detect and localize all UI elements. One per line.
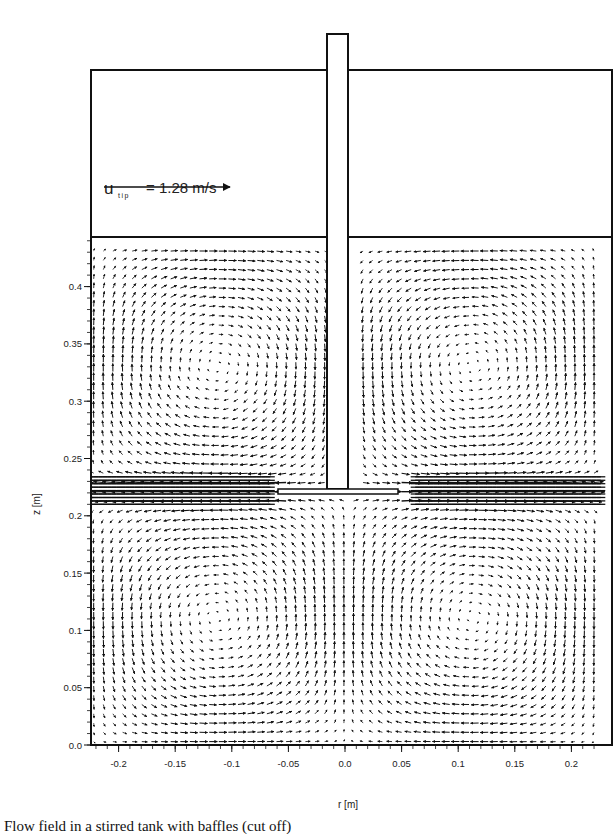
y-tick-label: 0.25: [64, 453, 83, 464]
figure-caption: Flow field in a stirred tank with baffle…: [4, 818, 291, 834]
y-tick-label: 0.4: [69, 281, 82, 292]
legend-subscript: tip: [118, 192, 130, 200]
x-tick-label: -0.05: [278, 758, 300, 769]
velocity-scale-legend: u tip = 1.28 m/s: [104, 179, 230, 200]
y-axis-label: z [m]: [31, 493, 42, 515]
y-tick-label: 0.05: [64, 682, 83, 693]
x-axis-label: r [m]: [338, 799, 358, 810]
x-tick-label: -0.2: [110, 758, 126, 769]
x-tick-label: 0.2: [565, 758, 578, 769]
y-tick-label: 0.2: [69, 510, 82, 521]
y-tick-label: 0.15: [64, 568, 83, 579]
legend-symbol: u: [104, 179, 113, 198]
x-tick-label: 0.1: [452, 758, 465, 769]
vector-field-figure: u tip = 1.28 m/s -0.2-0.15-0.1-0.050.00.…: [0, 0, 615, 834]
x-axis: -0.2-0.15-0.1-0.050.00.050.10.150.2: [96, 745, 594, 769]
impeller-shaft: [327, 34, 348, 489]
x-tick-label: -0.1: [224, 758, 240, 769]
y-tick-label: 0.1: [69, 625, 82, 636]
x-tick-label: 0.15: [506, 758, 525, 769]
x-tick-label: -0.15: [164, 758, 186, 769]
y-tick-label: 0.0: [69, 740, 82, 751]
x-tick-label: 0.05: [392, 758, 411, 769]
impeller-disc: [278, 489, 398, 494]
tank-headspace-frame: [91, 70, 612, 237]
x-tick-label: 0.0: [338, 758, 351, 769]
y-tick-label: 0.3: [69, 396, 82, 407]
y-tick-label: 0.35: [64, 338, 83, 349]
y-axis: 0.00.050.10.150.20.250.30.350.4: [64, 241, 92, 751]
